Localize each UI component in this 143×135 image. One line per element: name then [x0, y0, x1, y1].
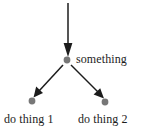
- node-do-thing-1[interactable]: [29, 98, 36, 105]
- node-label-do-thing-1: do thing 1: [4, 113, 54, 126]
- edge-right-shaft: [71, 65, 98, 92]
- edge-something-to-do-thing-1: [34, 65, 64, 98]
- diagram-canvas: something do thing 1 do thing 2: [0, 0, 143, 135]
- entry-arrow-head: [64, 43, 73, 57]
- edge-something-to-do-thing-2: [71, 65, 104, 99]
- node-do-thing-2[interactable]: [102, 99, 109, 106]
- node-label-something: something: [76, 53, 127, 66]
- node-label-do-thing-2: do thing 2: [78, 113, 128, 126]
- node-something[interactable]: [64, 57, 71, 64]
- entry-arrow: [64, 3, 73, 57]
- edge-left-shaft: [39, 65, 63, 91]
